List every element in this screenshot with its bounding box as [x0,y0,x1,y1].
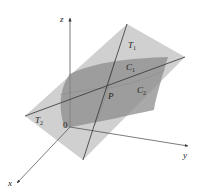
z-axis-label: z [59,14,64,24]
point-p-label: P [107,91,114,101]
x-axis [17,127,70,183]
y-axis-label: y [182,150,187,160]
surface [61,57,168,128]
x-axis-label: x [7,178,12,188]
tangent-plane-diagram: z x y 0 T1 T2 C1 C2 P [0,0,203,189]
origin-label: 0 [63,120,68,130]
